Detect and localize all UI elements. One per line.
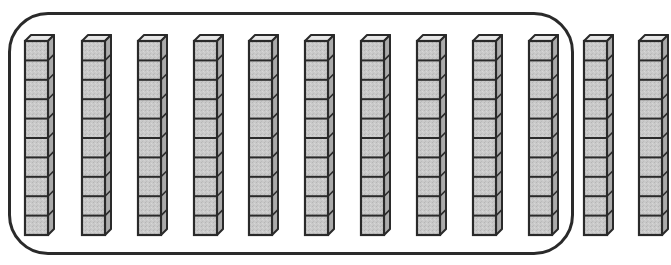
ten-rod-icon	[81, 34, 112, 236]
ten-rod-icon	[248, 34, 279, 236]
ten-rod-icon	[193, 34, 224, 236]
ten-rod-grouped	[360, 34, 390, 230]
ten-rod-grouped	[24, 34, 54, 230]
ten-rod-grouped	[472, 34, 502, 230]
ten-rod-grouped	[248, 34, 278, 230]
ten-rod-icon	[360, 34, 391, 236]
ten-rod-icon	[24, 34, 55, 236]
ten-rod-icon	[416, 34, 447, 236]
base-ten-blocks-diagram: Base-ten blocks: 12 ten-rods, 10 of them…	[0, 0, 671, 265]
ten-rod-icon	[583, 34, 614, 236]
ten-rod-grouped	[528, 34, 558, 230]
ten-rod-icon	[528, 34, 559, 236]
ten-rod-ungrouped	[583, 34, 613, 230]
ten-rod-icon	[472, 34, 503, 236]
ten-rod-grouped	[304, 34, 334, 230]
ten-rod-icon	[137, 34, 168, 236]
ten-rod-icon	[304, 34, 335, 236]
ten-rod-grouped	[137, 34, 167, 230]
ten-rod-grouped	[416, 34, 446, 230]
ten-rod-grouped	[193, 34, 223, 230]
ten-rod-grouped	[81, 34, 111, 230]
ten-rod-ungrouped	[638, 34, 668, 230]
ten-rod-icon	[638, 34, 669, 236]
